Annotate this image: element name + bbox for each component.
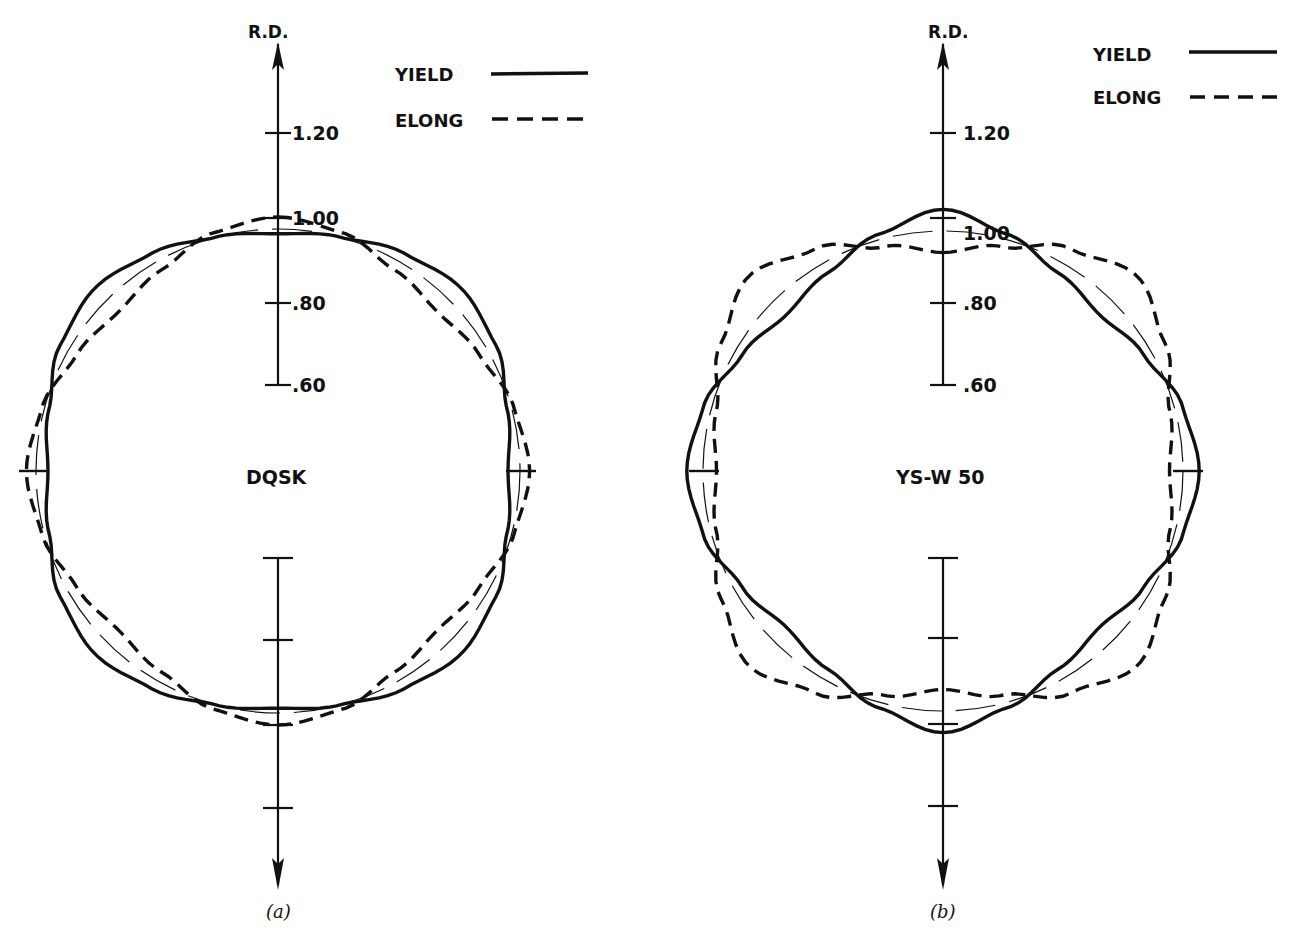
panel-a-rd-label: R.D. (248, 22, 288, 42)
panel-b-rd-label: R.D. (928, 22, 968, 42)
panel-b-title: YS-W 50 (895, 466, 985, 488)
panel-b-caption: (b) (930, 901, 956, 922)
panel-a-dqsk: R.D. 1.20 1.00 .80 .60 DQSK YIELD ELONG … (19, 22, 588, 922)
panel-a-tick-080: .80 (292, 292, 326, 314)
panel-b-legend-yield-label: YIELD (1092, 44, 1151, 65)
panel-b-ysw50: R.D. 1.20 1.00 .80 .60 YS-W 50 YIELD ELO… (687, 22, 1280, 922)
panel-a-tick-100: 1.00 (292, 207, 339, 229)
panel-a-legend-yield-label: YIELD (394, 64, 453, 85)
panel-a-caption: (a) (266, 901, 291, 922)
panel-a-title: DQSK (246, 466, 308, 488)
panel-b-legend-elong-label: ELONG (1093, 87, 1161, 108)
panel-b-tick-060: .60 (963, 374, 997, 396)
panel-b-tick-120: 1.20 (963, 122, 1010, 144)
panel-a-legend-elong-label: ELONG (395, 110, 463, 131)
panel-a-legend-yield-line (491, 73, 588, 74)
panel-a-tick-060: .60 (292, 374, 326, 396)
panel-a-tick-120: 1.20 (292, 122, 339, 144)
panel-b-tick-080: .80 (963, 292, 997, 314)
figure-canvas: R.D. 1.20 1.00 .80 .60 DQSK YIELD ELONG … (0, 0, 1290, 928)
panel-b-tick-100: 1.00 (963, 222, 1010, 244)
